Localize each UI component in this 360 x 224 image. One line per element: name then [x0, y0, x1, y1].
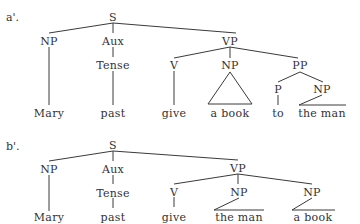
- tree-b-node-s: S: [109, 140, 117, 151]
- tree-b-leaf-past: past: [101, 212, 126, 223]
- tree-b-tag: b'.: [6, 141, 20, 152]
- tree-a-node-vp: VP: [222, 36, 238, 47]
- tree-b-node-aux: Aux: [102, 164, 124, 175]
- tree-a-node-pp: PP: [292, 60, 307, 71]
- tree-a-node-np-subject: NP: [40, 36, 58, 47]
- tree-a-node-p: P: [274, 84, 282, 95]
- tree-a-node-s: S: [109, 12, 117, 23]
- tree-b-node-np-indirect: NP: [230, 187, 248, 198]
- tree-a-node-v: V: [170, 60, 178, 71]
- tree-a-leaf-give: give: [162, 108, 186, 119]
- tree-b-leaf-mary: Mary: [34, 212, 65, 223]
- tree-b-node-np-subject: NP: [40, 164, 58, 175]
- tree-a-node-tense: Tense: [96, 60, 130, 71]
- tree-b-leaf-give: give: [162, 212, 186, 223]
- tree-a-leaf-to: to: [272, 108, 284, 119]
- tree-b-node-vp: VP: [230, 163, 246, 174]
- tree-a-tag: a'.: [6, 12, 19, 23]
- tree-a-node-np-pp-object: NP: [313, 84, 331, 95]
- tree-b-node-v: V: [170, 187, 178, 198]
- tree-b-leaf-the-man: the man: [215, 212, 263, 223]
- tree-a-leaf-a-book: a book: [211, 108, 250, 119]
- tree-b-node-np-direct: NP: [303, 187, 321, 198]
- tree-a-node-aux: Aux: [102, 36, 124, 47]
- tree-a-leaf-past: past: [101, 108, 126, 119]
- tree-b-node-tense: Tense: [96, 188, 130, 199]
- tree-a-leaf-mary: Mary: [34, 108, 65, 119]
- tree-b-leaf-a-book: a book: [294, 212, 333, 223]
- tree-a-node-np-object: NP: [221, 60, 239, 71]
- syntax-tree-figure: a'. S NP Aux Tense VP V NP PP P NP Mary …: [0, 0, 360, 224]
- tree-a-leaf-the-man: the man: [298, 108, 346, 119]
